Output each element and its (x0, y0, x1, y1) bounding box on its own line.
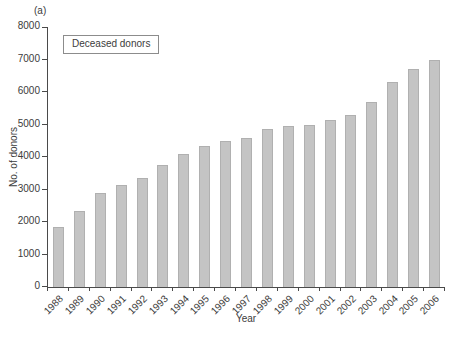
x-tick (319, 287, 320, 291)
bar-1990 (95, 193, 106, 287)
x-tick-label-2002: 2002 (334, 293, 358, 317)
bar-1995 (199, 146, 210, 287)
x-tick (47, 287, 48, 291)
x-tick (444, 287, 445, 291)
bar-1998 (262, 129, 273, 287)
legend-box: Deceased donors (63, 35, 159, 54)
x-tick (360, 287, 361, 291)
bar-1989 (74, 211, 85, 287)
x-tick-label-2000: 2000 (292, 293, 316, 317)
x-tick (131, 287, 132, 291)
bar-1996 (220, 141, 231, 287)
x-tick (214, 287, 215, 291)
bar-1999 (283, 126, 294, 287)
x-tick-label-1999: 1999 (272, 293, 296, 317)
x-tick (68, 287, 69, 291)
y-tick-8000 (42, 27, 47, 28)
y-tick-label-2000: 2000 (2, 215, 40, 227)
bar-2004 (387, 82, 398, 287)
x-tick (298, 287, 299, 291)
bar-2001 (325, 120, 336, 287)
x-tick-label-1989: 1989 (63, 293, 87, 317)
bar-2006 (429, 60, 440, 288)
x-tick (151, 287, 152, 291)
y-tick-label-0: 0 (2, 280, 40, 292)
y-tick-label-6000: 6000 (2, 85, 40, 97)
x-tick (402, 287, 403, 291)
x-tick-label-1993: 1993 (146, 293, 170, 317)
figure: (a) No. of donors Deceased donors 010002… (0, 0, 450, 341)
y-tick-label-4000: 4000 (2, 150, 40, 162)
x-tick-label-1988: 1988 (42, 293, 66, 317)
y-tick-4000 (42, 156, 47, 157)
x-tick-label-2003: 2003 (355, 293, 379, 317)
x-tick-label-2004: 2004 (376, 293, 400, 317)
x-axis-title: Year (236, 313, 256, 324)
y-tick-1000 (42, 254, 47, 255)
x-tick (172, 287, 173, 291)
bar-2000 (304, 125, 315, 288)
y-tick-label-3000: 3000 (2, 183, 40, 195)
x-tick (193, 287, 194, 291)
x-tick (423, 287, 424, 291)
figure-panel-label: (a) (34, 5, 46, 16)
y-tick-7000 (42, 59, 47, 60)
bar-1993 (157, 165, 168, 287)
x-tick (340, 287, 341, 291)
x-tick-label-2005: 2005 (397, 293, 421, 317)
y-tick-label-5000: 5000 (2, 118, 40, 130)
bar-2002 (345, 115, 356, 287)
y-tick-label-1000: 1000 (2, 248, 40, 260)
x-tick-label-1990: 1990 (84, 293, 108, 317)
x-tick-label-1991: 1991 (104, 293, 128, 317)
y-tick-2000 (42, 221, 47, 222)
bar-2003 (366, 102, 377, 287)
legend-label: Deceased donors (72, 38, 150, 49)
x-tick-label-1994: 1994 (167, 293, 191, 317)
y-tick-label-8000: 8000 (2, 20, 40, 32)
x-tick-label-2006: 2006 (418, 293, 442, 317)
y-tick-5000 (42, 124, 47, 125)
bar-1997 (241, 138, 252, 288)
bar-1988 (53, 227, 64, 287)
x-tick (235, 287, 236, 291)
x-tick (110, 287, 111, 291)
x-tick-label-1995: 1995 (188, 293, 212, 317)
y-tick-3000 (42, 189, 47, 190)
y-tick-label-7000: 7000 (2, 53, 40, 65)
bar-1994 (178, 154, 189, 287)
x-tick-label-2001: 2001 (313, 293, 337, 317)
x-tick (277, 287, 278, 291)
bar-1991 (116, 185, 127, 287)
bar-1992 (137, 178, 148, 287)
y-tick-6000 (42, 91, 47, 92)
x-tick-label-1992: 1992 (125, 293, 149, 317)
x-tick (89, 287, 90, 291)
x-tick (381, 287, 382, 291)
x-tick-label-1996: 1996 (209, 293, 233, 317)
plot-area: Deceased donors 010002000300040005000600… (47, 27, 445, 288)
x-tick (256, 287, 257, 291)
bar-2005 (408, 69, 419, 287)
